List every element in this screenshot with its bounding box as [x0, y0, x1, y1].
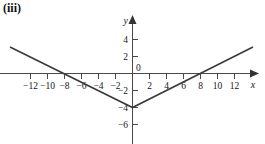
x-axis-label: x: [250, 79, 256, 90]
y-tick-label: −6: [118, 120, 128, 130]
x-tick-label: 10: [213, 81, 223, 91]
function-curve: [10, 47, 253, 108]
x-axis-arrow-icon: [250, 70, 259, 78]
y-tick-label: 2: [123, 52, 128, 62]
y-tick-label: 4: [123, 35, 128, 45]
x-tick-label: 2: [147, 81, 152, 91]
graph-plot: −12 −10 −8 −6 −4 −2 2 4 6 8 10 12 4 2 −2…: [0, 0, 265, 144]
x-tick-label: −10: [40, 81, 55, 91]
y-axis-label: y: [123, 15, 129, 26]
x-tick-label: −8: [59, 81, 69, 91]
y-axis-arrow-icon: [129, 15, 137, 24]
y-axis-ticks: [133, 40, 138, 125]
origin-label: 0: [136, 63, 141, 73]
x-tick-label: −12: [23, 81, 38, 91]
y-tick-label: −2: [118, 86, 128, 96]
figure-container: (iii): [0, 0, 265, 144]
x-tick-label: 12: [230, 81, 240, 91]
x-tick-label: 8: [198, 81, 203, 91]
